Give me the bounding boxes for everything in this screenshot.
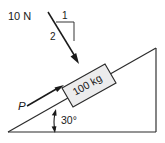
slope-rise-label: 1: [62, 10, 68, 21]
force-slope-triangle: [56, 22, 74, 41]
push-force-label: P: [18, 100, 26, 112]
applied-force-magnitude-label: 10 N: [8, 10, 31, 22]
slope-run-label: 2: [50, 31, 56, 42]
incline-angle-marker: [52, 109, 57, 133]
angle-arc-arrowhead-top: [52, 109, 57, 116]
incline-angle-label: 30°: [61, 114, 77, 126]
physics-diagram-container: 100 kg 10 N 1 2 P 30°: [0, 0, 165, 143]
inclined-plane-diagram: 100 kg 10 N 1 2 P 30°: [0, 0, 165, 143]
applied-force-arrowhead: [71, 53, 80, 64]
push-force-line: [27, 88, 58, 106]
